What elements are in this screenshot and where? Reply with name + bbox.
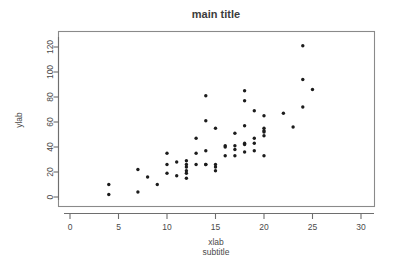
plot-canvas: main title 020406080100120 ylab 05101520… (0, 0, 395, 270)
data-point (165, 172, 168, 175)
x-tick-label: 20 (259, 222, 269, 232)
data-point (194, 152, 197, 155)
data-point (185, 177, 188, 180)
data-point (165, 163, 168, 166)
data-point (185, 165, 188, 168)
data-point (243, 89, 246, 92)
data-point (243, 124, 246, 127)
y-tick-label: 100 (45, 65, 55, 79)
data-point (233, 154, 236, 157)
data-point (233, 132, 236, 135)
data-point (185, 159, 188, 162)
data-point (214, 165, 217, 168)
y-tick-label: 80 (45, 92, 55, 102)
data-point (262, 154, 265, 157)
data-point (136, 190, 139, 193)
data-point (233, 144, 236, 147)
data-point (107, 193, 110, 196)
data-point (301, 78, 304, 81)
data-point (146, 175, 149, 178)
figure-background (0, 0, 395, 270)
data-point (165, 152, 168, 155)
data-point (204, 149, 207, 152)
data-point (282, 112, 285, 115)
data-point (243, 99, 246, 102)
data-point (262, 130, 265, 133)
page-title: main title (192, 8, 240, 20)
data-point (156, 183, 159, 186)
x-tick-label: 15 (211, 222, 221, 232)
scatter-plot-figure: main title 020406080100120 ylab 05101520… (0, 0, 395, 270)
y-tick-label: 20 (45, 167, 55, 177)
data-point (204, 163, 207, 166)
data-point (253, 142, 256, 145)
data-point (175, 160, 178, 163)
data-point (253, 137, 256, 140)
y-tick-label: 0 (45, 194, 55, 199)
data-point (243, 143, 246, 146)
data-point (214, 127, 217, 130)
data-point (301, 44, 304, 47)
data-point (194, 163, 197, 166)
data-point (175, 174, 178, 177)
x-tick-label: 5 (116, 222, 121, 232)
data-point (204, 119, 207, 122)
y-axis-label: ylab (14, 112, 24, 128)
data-point (243, 150, 246, 153)
data-point (204, 94, 207, 97)
data-point (253, 109, 256, 112)
data-point (224, 154, 227, 157)
y-tick-label: 60 (45, 117, 55, 127)
data-point (253, 149, 256, 152)
data-point (107, 183, 110, 186)
data-point (291, 125, 294, 128)
data-point (262, 114, 265, 117)
data-point (262, 134, 265, 137)
data-point (301, 105, 304, 108)
data-point (136, 168, 139, 171)
y-tick-label: 120 (45, 40, 55, 54)
data-point (311, 88, 314, 91)
x-tick-label: 30 (356, 222, 366, 232)
data-point (185, 172, 188, 175)
subtitle-label: subtitle (203, 247, 230, 257)
y-tick-label: 40 (45, 142, 55, 152)
x-axis-label: xlab (208, 237, 224, 247)
data-point (194, 137, 197, 140)
data-point (224, 145, 227, 148)
x-tick-label: 10 (162, 222, 172, 232)
x-tick-label: 25 (308, 222, 318, 232)
data-point (214, 169, 217, 172)
x-tick-label: 0 (68, 222, 73, 232)
data-point (233, 148, 236, 151)
